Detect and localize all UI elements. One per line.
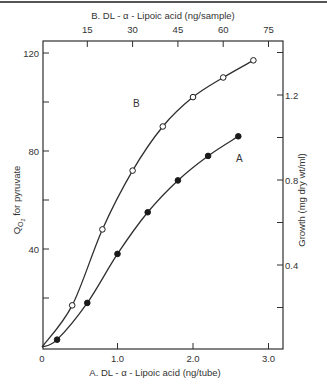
open-circle-marker [251,58,257,64]
filled-circle-marker [115,251,121,257]
filled-circle-marker [236,134,242,140]
open-circle-marker [190,94,196,100]
left-axis-title: QO2 for pyruvate [11,166,26,235]
curve-label-a: A [236,153,243,164]
y-tick-label: 80 [28,146,39,157]
axis-ticks: 01.02.03.0153045607540801200.40.81.2 [23,24,298,364]
open-circle-marker [100,227,106,233]
chart: 01.02.03.0153045607540801200.40.81.2 B. … [0,0,327,388]
markers [54,58,256,343]
open-circle-marker [69,303,75,309]
x-tick-label: 0 [39,353,44,364]
x2-tick-label: 45 [173,24,184,35]
open-circle-marker [220,75,226,81]
x2-tick-label: 15 [82,24,93,35]
filled-circle-marker [175,178,181,184]
curve-label-b: B [133,98,140,109]
filled-circle-marker [54,337,60,343]
bottom-axis-title: A. DL - α - Lipoic acid (ng/tube) [89,367,220,378]
y-tick-label: 40 [28,244,39,255]
open-circle-marker [160,124,166,130]
filled-circle-marker [85,300,91,306]
y-tick-label: 120 [23,48,39,59]
x2-tick-label: 75 [263,24,274,35]
open-circle-marker [130,168,136,174]
top-axis-title: B. DL - α - Lipoic acid (ng/sample) [91,10,234,21]
filled-circle-marker [205,153,211,159]
x2-tick-label: 60 [218,24,229,35]
x-tick-label: 1.0 [111,353,124,364]
y2-tick-label: 1.2 [285,90,298,101]
x2-tick-label: 30 [127,24,138,35]
y2-tick-label: 0.4 [285,260,298,271]
x-tick-label: 2.0 [186,353,199,364]
curve-a [42,136,238,347]
x-tick-label: 3.0 [262,353,275,364]
right-axis-title: Growth (mg dry wt/ml) [296,153,307,246]
filled-circle-marker [145,209,151,215]
